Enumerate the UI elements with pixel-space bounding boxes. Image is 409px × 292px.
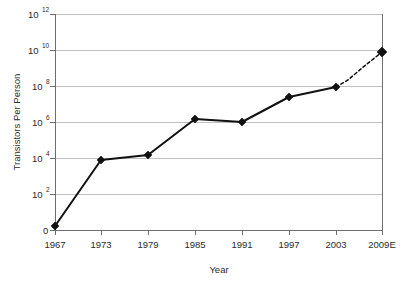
y-tick-exponent: 4	[46, 150, 50, 157]
x-tick-label-1967: 1967	[44, 239, 65, 250]
y-tick-label-0: 0	[43, 225, 48, 236]
y-tick-exponent: 8	[46, 78, 50, 85]
x-axis-title: Year	[209, 264, 228, 275]
y-tick-exponent: 10	[42, 42, 50, 49]
y-tick-mantissa: 10	[32, 81, 43, 92]
y-tick-exponent: 2	[46, 186, 50, 193]
y-tick-exponent: 6	[46, 114, 50, 121]
y-tick-mantissa: 10	[32, 189, 43, 200]
chart-figure: 10 12 10 10 10 8 10 6 10 4 10 2	[0, 0, 409, 292]
y-tick-exponent: 12	[42, 6, 50, 13]
x-tick-label-1979: 1979	[137, 239, 158, 250]
x-tick-label-1997: 1997	[278, 239, 299, 250]
x-tick-label-2009E: 2009E	[368, 239, 395, 250]
x-tick-label-1973: 1973	[90, 239, 111, 250]
y-tick-mantissa: 10	[28, 9, 39, 20]
y-axis-title: Transistors Per Person	[11, 74, 22, 171]
y-tick-mantissa: 0	[43, 225, 48, 236]
x-tick-label-1985: 1985	[184, 239, 205, 250]
x-tick-label-1991: 1991	[231, 239, 252, 250]
y-tick-mantissa: 10	[28, 45, 39, 56]
transistors-per-person-line-chart: 10 12 10 10 10 8 10 6 10 4 10 2	[0, 0, 409, 292]
y-tick-mantissa: 10	[32, 153, 43, 164]
y-tick-mantissa: 10	[32, 117, 43, 128]
x-tick-label-2003: 2003	[325, 239, 346, 250]
